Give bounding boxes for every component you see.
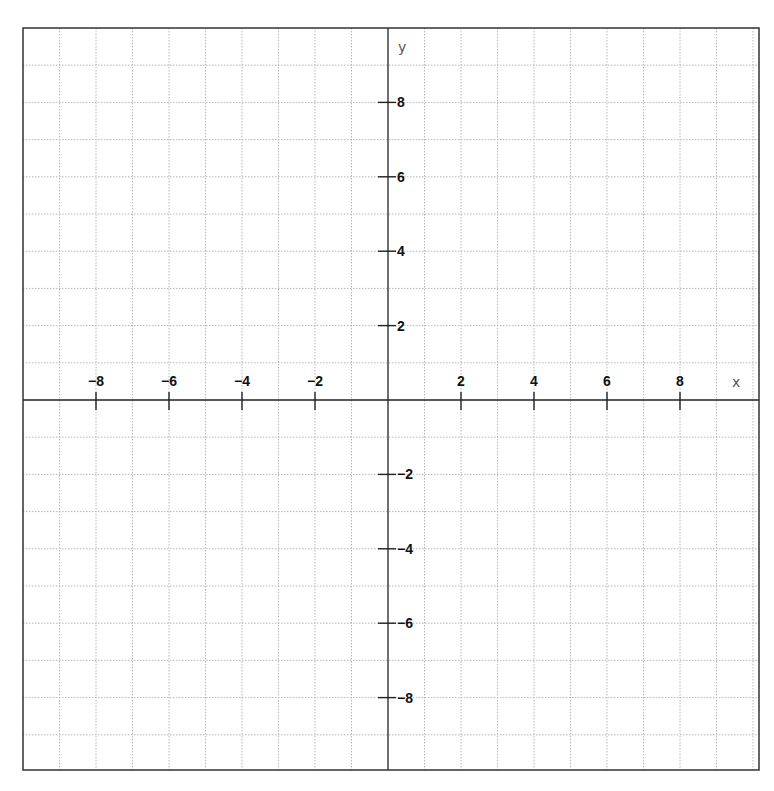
y-tick-label: −4: [397, 541, 413, 557]
y-tick-label: −8: [397, 690, 413, 706]
x-tick-label: −8: [88, 373, 104, 389]
x-tick-label: −2: [307, 373, 323, 389]
y-tick-label: 2: [397, 318, 405, 334]
x-axis-label: x: [732, 374, 740, 390]
plot-frame: [23, 28, 759, 770]
y-tick-label: 8: [397, 94, 405, 110]
coordinate-plane: −8−6−4−224688642−2−4−6−8 x y: [0, 0, 774, 791]
y-tick-label: −2: [397, 466, 413, 482]
x-tick-label: 6: [603, 373, 611, 389]
x-tick-label: −4: [234, 373, 250, 389]
y-axis-label: y: [398, 39, 406, 55]
x-tick-label: 2: [457, 373, 465, 389]
axes: [23, 28, 759, 770]
x-tick-label: 4: [530, 373, 538, 389]
y-tick-label: −6: [397, 615, 413, 631]
y-tick-label: 4: [397, 243, 405, 259]
grid-lines: [23, 28, 759, 770]
y-tick-label: 6: [397, 169, 405, 185]
x-tick-label: −6: [161, 373, 177, 389]
x-tick-label: 8: [676, 373, 684, 389]
